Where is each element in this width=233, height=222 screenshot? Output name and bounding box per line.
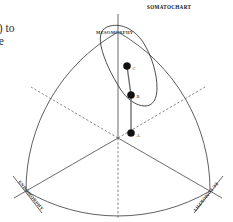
datapoint-b[interactable] bbox=[127, 91, 134, 98]
datapoint-a-label: A bbox=[137, 133, 141, 138]
datapoint-c-label: C bbox=[133, 66, 136, 71]
axis-label-ectomorphy: ECTOMORPHY bbox=[192, 181, 219, 213]
somatochart-page: 3) to ne c SOMATOCHART bbox=[0, 0, 233, 222]
datapoint-c[interactable] bbox=[123, 62, 130, 69]
axis-label-endomorphy: ENDOMORPHY bbox=[17, 179, 45, 211]
datapoint-a[interactable] bbox=[127, 129, 134, 136]
axis-ectomorphy bbox=[118, 138, 222, 198]
axis-label-mesomorphy: MESOMORPHY bbox=[96, 30, 134, 35]
somatochart-figure: SOMATOCHART A bbox=[0, 0, 233, 222]
chart-title: SOMATOCHART bbox=[147, 4, 191, 10]
datapoint-b-label: B bbox=[137, 94, 140, 99]
dashed-axis-upper-left bbox=[31, 87, 118, 138]
